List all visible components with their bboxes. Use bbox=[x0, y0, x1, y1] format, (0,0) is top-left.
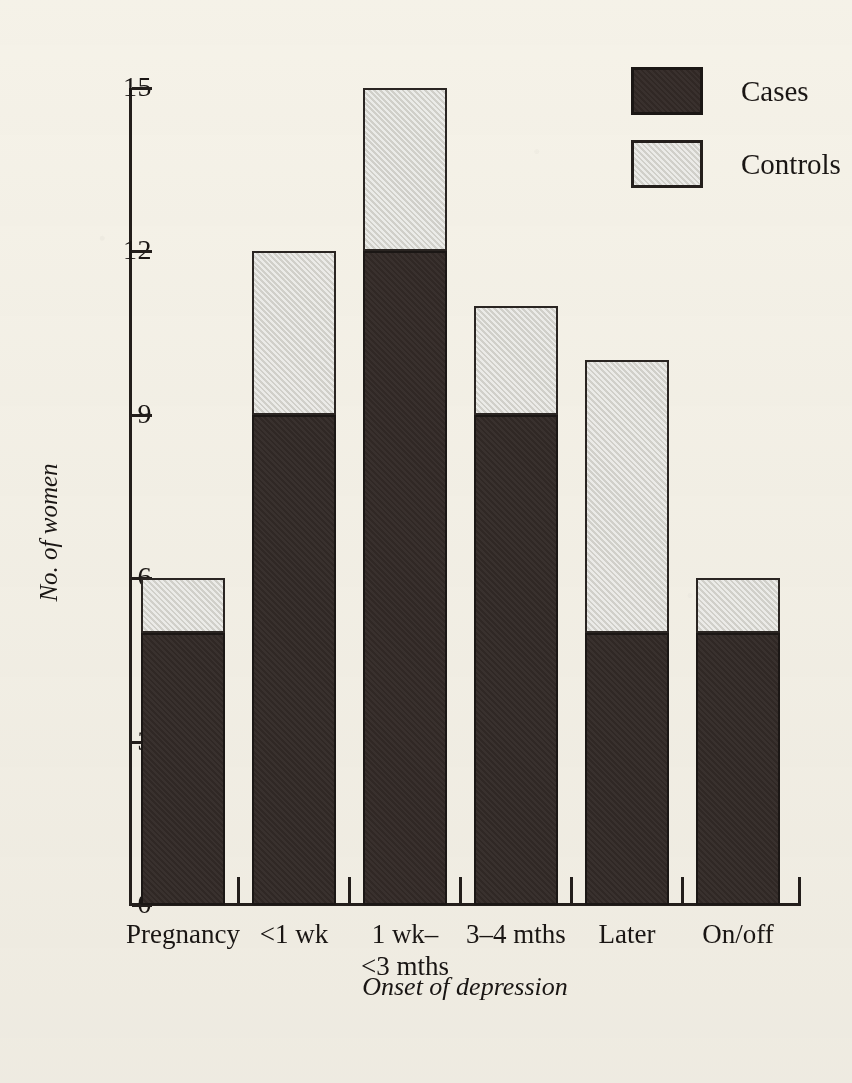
bar-segment-cases[interactable] bbox=[252, 415, 336, 905]
bar-segment-cases[interactable] bbox=[474, 415, 558, 905]
legend-item[interactable]: Controls bbox=[631, 140, 841, 188]
x-axis-end-tick bbox=[798, 877, 801, 906]
stacked-bar[interactable] bbox=[252, 251, 336, 905]
stacked-bar[interactable] bbox=[696, 578, 780, 905]
legend-item-label: Cases bbox=[741, 77, 809, 106]
y-axis-tick: 9 bbox=[0, 414, 152, 417]
legend-swatch-cases-icon bbox=[631, 67, 703, 115]
x-axis-tick-mark bbox=[459, 877, 462, 904]
chart-page: 03691215 Pregnancy<1 wk1 wk– <3 mths3–4 … bbox=[0, 0, 852, 1083]
bar-segment-controls[interactable] bbox=[363, 88, 447, 251]
bar-segment-controls[interactable] bbox=[474, 306, 558, 415]
bar-segment-controls[interactable] bbox=[585, 360, 669, 632]
bar-segment-cases[interactable] bbox=[141, 633, 225, 905]
legend-swatch-controls-icon bbox=[631, 140, 703, 188]
plot-area: 03691215 Pregnancy<1 wk1 wk– <3 mths3–4 … bbox=[0, 0, 852, 1083]
bar-segment-controls[interactable] bbox=[252, 251, 336, 414]
x-axis-tick-mark bbox=[348, 877, 351, 904]
y-axis-tick: 12 bbox=[0, 250, 152, 253]
y-axis-tick-mark bbox=[132, 250, 152, 253]
legend-item-label: Controls bbox=[741, 150, 841, 179]
bar-segment-controls[interactable] bbox=[696, 578, 780, 632]
y-axis-tick: 15 bbox=[0, 87, 152, 90]
x-axis-category-label: On/off bbox=[648, 918, 828, 950]
x-axis-title: Onset of depression bbox=[129, 972, 801, 1002]
stacked-bar[interactable] bbox=[141, 578, 225, 905]
y-axis-title: No. of women bbox=[36, 433, 61, 633]
x-axis-tick-mark bbox=[570, 877, 573, 904]
x-axis-tick-mark bbox=[681, 877, 684, 904]
bar-segment-cases[interactable] bbox=[363, 251, 447, 905]
legend-item[interactable]: Cases bbox=[631, 67, 809, 115]
stacked-bar[interactable] bbox=[585, 360, 669, 905]
y-axis-tick-mark bbox=[132, 87, 152, 90]
bar-segment-cases[interactable] bbox=[585, 633, 669, 905]
y-axis-tick: 3 bbox=[0, 741, 152, 744]
stacked-bar[interactable] bbox=[474, 306, 558, 905]
x-axis-tick-mark bbox=[237, 877, 240, 904]
y-axis-tick-mark bbox=[132, 414, 152, 417]
y-axis-tick: 0 bbox=[0, 904, 152, 907]
bar-segment-controls[interactable] bbox=[141, 578, 225, 632]
bar-segment-cases[interactable] bbox=[696, 633, 780, 905]
stacked-bar[interactable] bbox=[363, 88, 447, 905]
y-axis-line bbox=[129, 88, 132, 906]
y-axis-tick: 6 bbox=[0, 577, 152, 580]
